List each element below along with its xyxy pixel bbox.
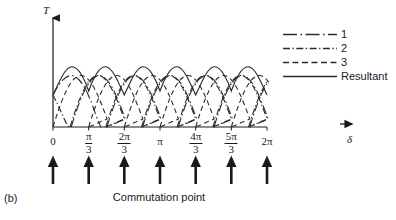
legend-item-resultant: Resultant [281, 70, 393, 84]
legend-label: Resultant [341, 70, 387, 82]
x-tick-label-2pi: 2π [261, 131, 272, 147]
fraction: π 3 [85, 131, 93, 155]
x-tick-label-4pi-over-3: 4π 3 [189, 131, 202, 155]
fraction-numerator: 5π [225, 131, 238, 144]
commutation-arrow [84, 156, 94, 185]
commutation-arrow [155, 156, 165, 185]
fraction-denominator: 3 [85, 144, 93, 156]
commutation-arrow [48, 156, 58, 185]
fraction-denominator: 3 [189, 144, 202, 156]
commutation-arrow [226, 156, 236, 185]
x-axis-label: δ [347, 134, 352, 145]
y-axis-label: T [43, 5, 49, 16]
legend: 1 2 3 Resultant [281, 28, 393, 84]
fraction: 5π 3 [225, 131, 238, 155]
panel-label: (b) [4, 193, 17, 204]
x-tick-label-5pi-over-3: 5π 3 [225, 131, 238, 155]
fraction-numerator: π [85, 131, 93, 144]
legend-item-1: 1 [281, 28, 393, 42]
legend-label: 3 [341, 56, 347, 68]
x-tick-text: 2π [261, 131, 272, 147]
x-tick-text: π [157, 131, 163, 147]
x-tick-label-pi: π [157, 131, 163, 147]
legend-item-2: 2 [281, 42, 393, 56]
x-tick-label-2pi-over-3: 2π 3 [118, 131, 131, 155]
legend-item-3: 3 [281, 56, 393, 70]
x-tick-text: 0 [50, 131, 56, 147]
fraction-denominator: 3 [118, 144, 131, 156]
commutation-point-caption: Commutation point [113, 192, 205, 203]
x-tick-label-pi-over-3: π 3 [85, 131, 93, 155]
fraction-numerator: 4π [189, 131, 202, 144]
fraction-denominator: 3 [225, 144, 238, 156]
legend-label: 1 [341, 28, 347, 40]
commutation-arrow [119, 156, 129, 185]
figure-panel-b: T δ 0 π 3 2π 3 π 4π 3 5π 3 2π [0, 0, 396, 220]
fraction: 2π 3 [118, 131, 131, 155]
commutation-arrow [191, 156, 201, 185]
fraction: 4π 3 [189, 131, 202, 155]
fraction-numerator: 2π [118, 131, 131, 144]
axis-lines [53, 18, 267, 127]
commutation-arrow-group [48, 156, 272, 185]
x-tick-label-0: 0 [50, 131, 56, 147]
legend-label: 2 [341, 42, 347, 54]
commutation-arrow [262, 156, 272, 185]
